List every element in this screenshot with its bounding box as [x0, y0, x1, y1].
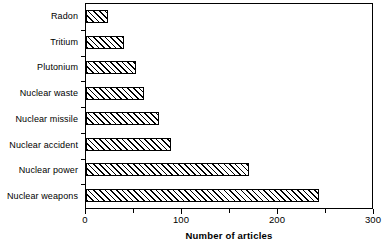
x-axis-tick-label: 0	[82, 214, 87, 226]
x-axis-tick-label: 300	[365, 214, 381, 226]
category-label-cell: Plutonium	[0, 55, 82, 81]
bar-row	[86, 55, 372, 81]
x-axis-minor-tick	[133, 209, 134, 213]
y-axis-tick	[81, 133, 86, 134]
category-label-cell: Nuclear waste	[0, 80, 82, 106]
y-axis-tick	[81, 159, 86, 160]
category-label-cell: Tritium	[0, 29, 82, 55]
bar	[86, 10, 108, 23]
bar	[86, 163, 249, 176]
category-label: Nuclear waste	[20, 88, 78, 98]
x-axis-tick-label: 100	[173, 214, 189, 226]
category-label-cell: Nuclear missile	[0, 106, 82, 132]
bar	[86, 61, 136, 74]
category-label-cell: Nuclear accident	[0, 132, 82, 158]
bar	[86, 138, 171, 151]
bar-row	[86, 106, 372, 132]
category-axis-labels: Radon Tritium Plutonium Nuclear waste Nu…	[0, 3, 82, 209]
category-label: Tritium	[50, 37, 78, 47]
bar-row	[86, 157, 372, 183]
x-axis-title: Number of articles	[85, 230, 373, 241]
category-label: Nuclear weapons	[7, 191, 78, 201]
category-label-cell: Nuclear power	[0, 158, 82, 184]
x-axis-minor-tick	[325, 209, 326, 213]
x-axis-minor-tick	[229, 209, 230, 213]
x-axis-tick-labels: 0100200300	[85, 214, 373, 227]
bar-row	[86, 183, 372, 209]
bar	[86, 189, 319, 202]
y-axis-tick	[81, 107, 86, 108]
bar-row	[86, 81, 372, 107]
plot-area	[85, 3, 373, 209]
category-label: Plutonium	[37, 62, 78, 72]
category-label: Nuclear power	[19, 165, 78, 175]
bar-series	[86, 4, 372, 208]
bar	[86, 112, 159, 125]
category-label: Nuclear missile	[15, 114, 78, 124]
x-axis-tick-label: 200	[269, 214, 285, 226]
y-axis-tick	[81, 81, 86, 82]
y-axis-tick	[81, 184, 86, 185]
category-label-cell: Radon	[0, 3, 82, 29]
bar	[86, 87, 144, 100]
y-axis-tick	[81, 30, 86, 31]
bar-row	[86, 132, 372, 158]
category-label-cell: Nuclear weapons	[0, 183, 82, 209]
y-axis-tick	[81, 56, 86, 57]
bar-chart: Radon Tritium Plutonium Nuclear waste Nu…	[0, 0, 390, 245]
bar-row	[86, 4, 372, 30]
bar-row	[86, 30, 372, 56]
category-label: Radon	[51, 11, 78, 21]
bar	[86, 36, 124, 49]
category-label: Nuclear accident	[9, 140, 78, 150]
